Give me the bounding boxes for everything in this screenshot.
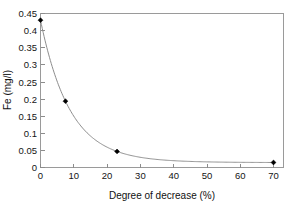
data-curve: [41, 20, 274, 162]
y-tick-label: 0.35: [19, 42, 38, 53]
x-tick-label: 60: [235, 170, 246, 181]
x-axis-title: Degree of decrease (%): [109, 190, 215, 201]
data-point-marker: [63, 99, 68, 104]
plot-frame: [41, 14, 284, 168]
data-markers: [38, 18, 276, 165]
y-tick-label: 0.25: [19, 77, 38, 88]
data-point-marker: [115, 149, 120, 154]
x-tick-label: 50: [202, 170, 213, 181]
x-tick-label: 20: [102, 170, 113, 181]
y-tick-label: 0.15: [19, 111, 38, 122]
y-tick-label: 0.05: [19, 145, 38, 156]
data-point-marker: [38, 18, 43, 23]
y-tick-label: 0.45: [19, 8, 38, 19]
y-axis-tick-labels: 0 0.05 0.1 0.15 0.2 0.25 0.3 0.35 0.4 0.…: [19, 8, 38, 173]
y-tick-label: 0.1: [24, 128, 37, 139]
x-axis-ticks: [41, 164, 274, 168]
y-axis-title: Fe (mg/l): [2, 70, 13, 110]
y-tick-label: 0: [32, 162, 37, 173]
x-tick-label: 40: [168, 170, 179, 181]
x-tick-label: 0: [38, 170, 43, 181]
chart-figure: 0 0.05 0.1 0.15 0.2 0.25 0.3 0.35 0.4 0.…: [0, 0, 304, 209]
y-tick-label: 0.3: [24, 59, 37, 70]
x-tick-label: 30: [135, 170, 146, 181]
x-tick-label: 10: [69, 170, 80, 181]
x-axis-tick-labels: 0 10 20 30 40 50 60 70: [38, 170, 279, 181]
chart-canvas: 0 0.05 0.1 0.15 0.2 0.25 0.3 0.35 0.4 0.…: [0, 0, 304, 209]
y-tick-label: 0.2: [24, 94, 37, 105]
x-tick-label: 70: [268, 170, 279, 181]
data-point-marker: [271, 160, 276, 165]
y-tick-label: 0.4: [24, 25, 37, 36]
